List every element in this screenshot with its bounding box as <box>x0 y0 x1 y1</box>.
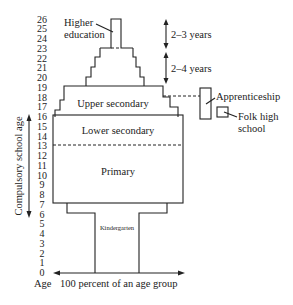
higher-label-1: Higher <box>64 17 94 28</box>
tick-7: 7 <box>40 199 45 210</box>
compulsory-age-arrow: Compulsory school age <box>13 114 32 218</box>
folk-high-school-block <box>217 107 228 117</box>
tick-3: 3 <box>40 238 45 249</box>
age-axis-label: Age <box>34 278 52 289</box>
tick-24: 24 <box>37 33 47 44</box>
folk-leader <box>224 112 237 117</box>
apprenticeship-block <box>200 88 211 119</box>
years-2-3-label: 2–3 years <box>171 29 212 40</box>
tick-20: 20 <box>37 72 47 83</box>
apprenticeship-label: Apprenticeship <box>216 91 280 102</box>
upper-secondary-label: Upper secondary <box>77 98 149 109</box>
higher-label-2: education <box>64 29 106 40</box>
tick-23: 23 <box>37 43 47 54</box>
tick-8: 8 <box>40 189 45 200</box>
tick-10: 10 <box>37 170 47 181</box>
tick-18: 18 <box>37 92 47 103</box>
folk-high-label-2: school <box>238 123 265 134</box>
tick-6: 6 <box>40 209 45 220</box>
tick-22: 22 <box>37 53 47 64</box>
x-axis-label: 100 percent of an age group <box>60 278 178 289</box>
tick-16: 16 <box>37 111 47 122</box>
lower-secondary-label: Lower secondary <box>82 125 155 136</box>
baseline-arrow <box>53 271 185 276</box>
tick-26: 26 <box>37 14 47 25</box>
compulsory-label: Compulsory school age <box>13 116 24 215</box>
tick-2: 2 <box>40 248 45 259</box>
tick-15: 15 <box>37 121 47 132</box>
years-2-4-label: 2–4 years <box>171 63 212 74</box>
tick-4: 4 <box>40 228 45 239</box>
education-system-diagram: 0 1 2 3 4 5 6 7 8 9 10 11 12 13 14 15 16… <box>0 0 293 305</box>
kindergarten-label: Kindergarten <box>100 224 135 231</box>
tick-12: 12 <box>37 150 47 161</box>
tick-11: 11 <box>37 160 47 171</box>
kindergarten-block <box>67 203 167 273</box>
age-axis-ticks: 0 1 2 3 4 5 6 7 8 9 10 11 12 13 14 15 16… <box>37 14 47 278</box>
tick-0: 0 <box>40 267 45 278</box>
tick-14: 14 <box>37 131 47 142</box>
folk-high-label-1: Folk high <box>238 111 279 122</box>
primary-label: Primary <box>101 166 136 177</box>
years-arrows <box>164 19 169 84</box>
tick-19: 19 <box>37 82 47 93</box>
